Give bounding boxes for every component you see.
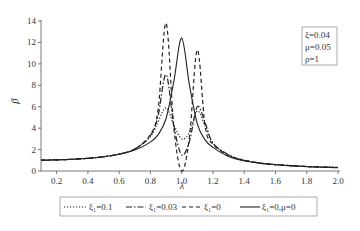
annotation-xi: ξ=0.04: [305, 30, 330, 40]
annotation-box: ξ=0.04 μ=0.05 ρ=1: [302, 27, 337, 65]
y-tick-label: 12: [27, 37, 36, 47]
legend: ξ₁=0.1 ξ₁=0.03 ξ₁=0 ξ₁=0,μ=0: [60, 197, 317, 216]
frequency-response-chart: 02468101214 0.20.40.60.81.01.21.41.61.82…: [0, 0, 360, 231]
legend-label: ξ₁=0,μ=0: [262, 202, 296, 212]
y-tick-label: 6: [32, 102, 37, 112]
y-tick-label: 4: [32, 123, 37, 133]
x-ticks: 0.20.40.60.81.01.21.41.61.82.0: [51, 171, 344, 186]
series-line-2: [41, 23, 338, 171]
x-tick-label: 1.6: [270, 176, 282, 186]
x-tick-label: 0.4: [82, 176, 94, 186]
x-tick-label: 1.2: [207, 176, 218, 186]
y-tick-label: 2: [32, 145, 37, 155]
series-line-3: [41, 38, 338, 168]
x-tick-label: 0.6: [114, 176, 126, 186]
annotation-mu: μ=0.05: [305, 42, 331, 52]
legend-label: ξ₁=0.03: [149, 202, 177, 212]
series-line-1: [41, 75, 338, 168]
x-tick-label: 0.8: [145, 176, 157, 186]
plot-area: [41, 23, 338, 171]
y-tick-label: 8: [32, 80, 37, 90]
x-tick-label: 0.2: [51, 176, 62, 186]
x-tick-label: 1.4: [239, 176, 251, 186]
y-tick-label: 14: [27, 16, 37, 26]
legend-label: ξ₁=0.1: [89, 202, 112, 212]
x-axis-label: λ: [179, 180, 185, 191]
x-tick-label: 1.8: [301, 176, 313, 186]
y-ticks: 02468101214: [27, 16, 41, 176]
annotation-rho: ρ=1: [305, 54, 319, 64]
x-tick-label: 2.0: [332, 176, 344, 186]
axes: 02468101214 0.20.40.60.81.01.21.41.61.82…: [8, 16, 344, 191]
y-axis-label: β: [8, 98, 20, 105]
y-tick-label: 10: [27, 59, 37, 69]
legend-label: ξ₁=0: [204, 202, 221, 212]
y-tick-label: 0: [32, 166, 37, 176]
